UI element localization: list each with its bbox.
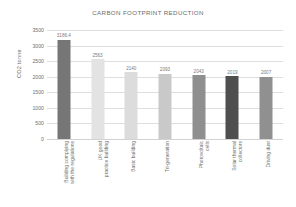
bar[interactable] — [226, 76, 239, 139]
bar-value-label: 2563 — [92, 53, 102, 58]
bar-value-label: 2019 — [227, 70, 237, 75]
bar[interactable] — [192, 75, 205, 139]
x-label-slot: UK goodpractice building — [81, 141, 115, 207]
y-tick-label: 2000 — [22, 74, 44, 80]
bar-slot: 2563 — [81, 30, 115, 139]
x-label-slot: Photovoltaiccells — [182, 141, 216, 207]
bars-layer: 3186.4256321402093204320192007 — [47, 30, 283, 139]
y-tick-label: 500 — [22, 120, 44, 126]
y-tick-label: 2500 — [22, 58, 44, 64]
x-label-slot: Solar thermalcollectors — [216, 141, 250, 207]
bar-value-label: 3186.4 — [57, 33, 71, 38]
bar-value-label: 2140 — [126, 66, 136, 71]
bar-value-label: 2043 — [194, 69, 204, 74]
y-tick-label: 3500 — [22, 27, 44, 33]
bar-slot: 2093 — [148, 30, 182, 139]
x-axis-category-label: Basic building — [131, 141, 137, 172]
chart-figure: CARBON FOOTPRINT REDUCTION CO2 tonne 350… — [0, 0, 296, 207]
x-label-slot: Tri-generation — [148, 141, 182, 207]
bar-slot: 2019 — [216, 30, 250, 139]
x-label-slot: Building complyingwith the regulations — [47, 141, 81, 207]
x-axis-category-label: UK goodpractice building — [98, 141, 109, 177]
x-axis-labels: Building complyingwith the regulationsUK… — [47, 141, 283, 207]
y-tick-label: 1500 — [22, 89, 44, 95]
gridline-0: 0 — [47, 139, 283, 140]
bar[interactable] — [260, 77, 273, 140]
bar-slot: 2007 — [249, 30, 283, 139]
bar[interactable] — [125, 72, 138, 139]
y-tick-label: 0 — [22, 136, 44, 142]
bar-value-label: 2007 — [261, 70, 271, 75]
bar-slot: 3186.4 — [47, 30, 81, 139]
x-axis-category-label: Solar thermalcollectors — [232, 141, 243, 171]
x-axis-category-label: Driving dust — [266, 141, 272, 167]
chart-title: CARBON FOOTPRINT REDUCTION — [0, 9, 296, 16]
x-label-slot: Driving dust — [249, 141, 283, 207]
bar[interactable] — [158, 74, 171, 139]
bar-slot: 2043 — [182, 30, 216, 139]
bar-slot: 2140 — [114, 30, 148, 139]
bar[interactable] — [91, 59, 104, 139]
bar[interactable] — [57, 40, 70, 139]
plot-area: 3500300025002000150010005000 3186.425632… — [47, 30, 283, 139]
x-axis-category-label: Building complyingwith the regulations — [64, 141, 75, 184]
y-tick-label: 3000 — [22, 43, 44, 49]
bar-value-label: 2093 — [160, 67, 170, 72]
x-label-slot: Basic building — [114, 141, 148, 207]
x-axis-category-label: Tri-generation — [165, 141, 171, 172]
y-tick-label: 1000 — [22, 105, 44, 111]
x-axis-category-label: Photovoltaiccells — [199, 141, 210, 168]
